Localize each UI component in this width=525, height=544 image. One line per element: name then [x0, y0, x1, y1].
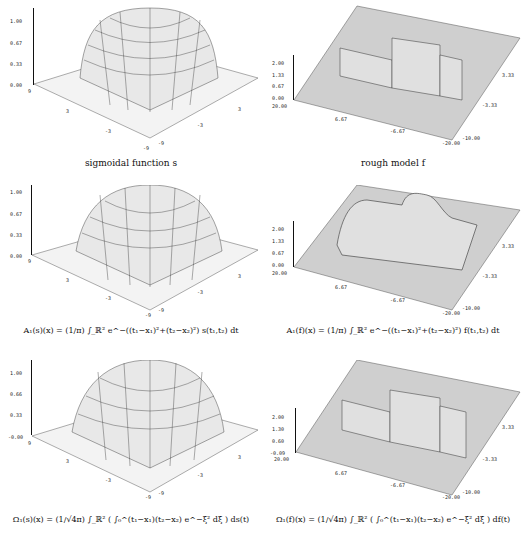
- axis-label: -3.33: [482, 456, 497, 462]
- axis-label: 6.67: [335, 116, 347, 122]
- axis-label: 3.33: [502, 424, 514, 430]
- panel-omega1-rough-model: 2.00 1.30 0.60 -0.09 20.00 6.67 -6.67 -2…: [262, 360, 524, 544]
- axis-label: -10.00: [462, 305, 480, 311]
- surface-plot-sigmoidal: [0, 0, 262, 160]
- panel-sigmoidal: 1.00 0.67 0.33 0.00 9 3 -3 -9 -9 -3 3 si…: [0, 0, 262, 185]
- axis-label: 9: [28, 440, 31, 446]
- axis-label: -6.67: [390, 297, 405, 303]
- axis-label: -20.00: [442, 310, 460, 316]
- axis-label: -6.67: [390, 128, 405, 134]
- axis-label: -3: [105, 128, 111, 134]
- caption: A₁(f)(x) = (1/π) ∫_ℝ² e^−((t₁−x₁)²+(t₂−x…: [262, 326, 524, 335]
- axis-label: 6.67: [335, 284, 347, 290]
- axis-label: -3: [197, 289, 203, 295]
- axis-label: -3: [105, 477, 111, 483]
- axis-label: -3: [197, 472, 203, 478]
- axis-label: -6.67: [390, 482, 405, 488]
- panel-omega1-sigmoidal: 1.00 0.66 0.33 -0.00 9 3 -3 -9 -9 -3 3 Ω…: [0, 360, 262, 544]
- axis-label: -9: [158, 140, 164, 146]
- axis-label: 9: [28, 258, 31, 264]
- caption: rough model f: [262, 158, 524, 168]
- surface-plot-a1-rough-model: [262, 185, 524, 325]
- axis-label: 3: [66, 108, 69, 114]
- axis-label: -3.33: [482, 273, 497, 279]
- axis-label: -20.00: [442, 494, 460, 500]
- axis-label: -9: [143, 145, 149, 151]
- axis-label: -3: [105, 295, 111, 301]
- axis-label: 3: [238, 106, 241, 112]
- panel-a1-rough-model: 2.00 1.33 0.67 0.00 20.00 6.67 -6.67 -20…: [262, 185, 524, 360]
- axis-label: 20.00: [272, 103, 287, 109]
- axis-label: -9: [145, 312, 151, 318]
- axis-label: 3.33: [502, 72, 514, 78]
- axis-label: 20.00: [272, 270, 287, 276]
- axis-label: 6.67: [335, 470, 347, 476]
- axis-label: -3.33: [482, 102, 497, 108]
- axis-label: -9: [158, 490, 164, 496]
- caption: Ω₁(s)(x) = (1/√4π) ∫_ℝ² ( ∫₀^(t₁−x₁)(t₂−…: [0, 515, 262, 524]
- panel-rough-model: 2.00 1.33 0.67 0.00 20.00 6.67 -6.67 -20…: [262, 0, 524, 185]
- axis-label: -10.00: [462, 489, 480, 495]
- axis-label: -3: [197, 122, 203, 128]
- axis-label: 3: [238, 454, 241, 460]
- axis-label: -20.00: [442, 140, 460, 146]
- caption: Ω₁(f)(x) = (1/√4π) ∫_ℝ² ( ∫₀^(t₁−x₁)(t₂−…: [262, 515, 524, 524]
- axis-label: 20.00: [274, 456, 289, 462]
- panel-a1-sigmoidal: 1.00 0.67 0.33 0.00 9 3 -3 -9 -9 -3 3 A₁…: [0, 185, 262, 360]
- surface-plot-a1-sigmoidal: [0, 185, 262, 325]
- axis-label: -9: [158, 307, 164, 313]
- caption: A₁(s)(x) = (1/π) ∫_ℝ² e^−((t₁−x₁)²+(t₂−x…: [0, 326, 262, 335]
- axis-label: 3: [238, 273, 241, 279]
- caption: sigmoidal function s: [0, 158, 262, 168]
- axis-label: 3: [66, 458, 69, 464]
- axis-label: -9: [145, 494, 151, 500]
- axis-label: 3: [66, 277, 69, 283]
- axis-label: 9: [28, 88, 31, 94]
- axis-label: 3.33: [502, 243, 514, 249]
- surface-plot-omega1-rough-model: [262, 360, 524, 500]
- axis-label: -10.00: [462, 135, 480, 141]
- surface-plot-rough-model: [262, 0, 524, 160]
- surface-plot-omega1-sigmoidal: [0, 360, 262, 500]
